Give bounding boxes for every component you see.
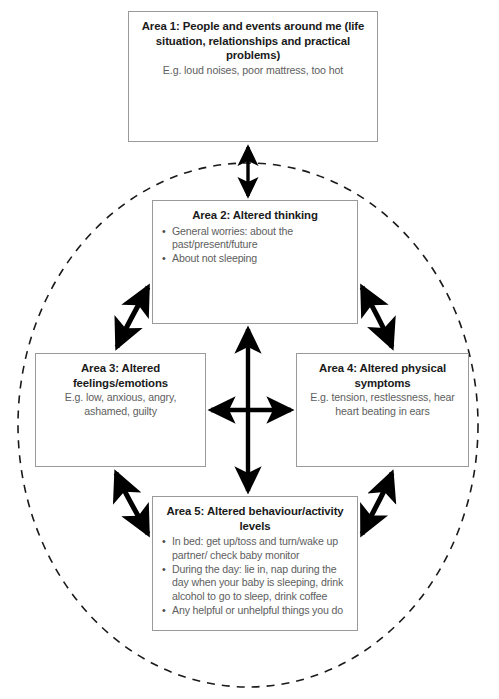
area-box-4: Area 4: Altered physical symptoms E.g. t… [296,353,469,467]
area-box-2: Area 2: Altered thinking General worries… [152,200,358,324]
area-4-subtitle: E.g. tension, restlessness, hear heart b… [306,391,459,418]
five-areas-diagram: Area 1: People and events around me (lif… [0,0,499,699]
area-5-title: Area 5: Altered behaviour/activity level… [162,504,348,533]
area-2-title: Area 2: Altered thinking [162,208,348,223]
area-5-bullet: During the day: lie in, nap during the d… [162,563,348,604]
area-box-1: Area 1: People and events around me (lif… [128,11,378,142]
connector-area2-to-area3 [117,287,148,347]
area-4-title: Area 4: Altered physical symptoms [306,361,459,390]
area-1-title: Area 1: People and events around me (lif… [138,19,368,63]
connector-area3-to-area5 [116,473,148,534]
area-5-bullet: In bed: get up/toss and turn/wake up par… [162,535,348,562]
area-2-bullet-list: General worries: about the past/present/… [162,225,348,266]
area-box-5: Area 5: Altered behaviour/activity level… [152,496,358,631]
area-3-title: Area 3: Altered feelings/emotions [45,361,196,390]
connector-area2-to-area4 [362,287,392,347]
area-1-subtitle: E.g. loud noises, poor mattress, too hot [138,64,368,78]
area-5-bullet-list: In bed: get up/toss and turn/wake up par… [162,535,348,618]
area-3-subtitle: E.g. low, anxious, angry, ashamed, guilt… [45,391,196,418]
area-5-bullet: Any helpful or unhelpful things you do [162,604,348,618]
connector-area4-to-area5 [362,473,392,534]
area-2-bullet: About not sleeping [162,252,348,266]
area-2-bullet: General worries: about the past/present/… [162,225,348,252]
area-box-3: Area 3: Altered feelings/emotions E.g. l… [35,353,206,467]
